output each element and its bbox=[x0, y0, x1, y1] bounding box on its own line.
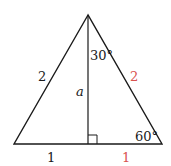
base-right-label: 1 bbox=[122, 150, 130, 165]
right-side-label: 2 bbox=[130, 69, 138, 84]
base-angle-label: 60° bbox=[135, 129, 158, 144]
right-angle-marker bbox=[88, 135, 97, 144]
triangle-diagram: 2 2 a 30° 60° 1 1 bbox=[0, 0, 171, 166]
apex-angle-label: 30° bbox=[90, 48, 113, 63]
left-side-label: 2 bbox=[38, 69, 46, 84]
base-left-label: 1 bbox=[47, 150, 55, 165]
triangle-figure: 2 2 a 30° 60° 1 1 bbox=[0, 0, 171, 166]
altitude-label: a bbox=[76, 84, 84, 99]
